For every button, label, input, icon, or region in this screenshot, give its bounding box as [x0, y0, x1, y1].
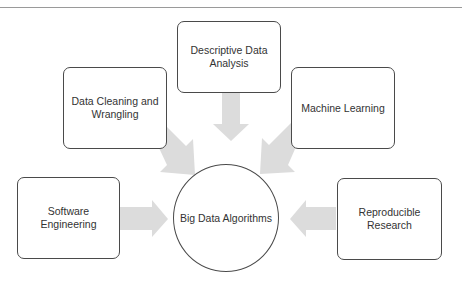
node-machine-learning: Machine Learning: [291, 67, 395, 149]
node-label-line2: Wrangling: [72, 108, 159, 121]
node-label-line1: Software: [40, 205, 96, 218]
node-label-line2: Research: [359, 219, 421, 232]
node-label-line1: Descriptive Data: [190, 44, 267, 57]
node-reproducible-research: Reproducible Research: [337, 178, 442, 260]
center-node-big-data-algorithms: Big Data Algorithms: [173, 164, 279, 272]
node-label-line1: Reproducible: [359, 206, 421, 219]
arrow-down-icon: [213, 92, 249, 141]
arrow-left-icon: [290, 200, 336, 237]
center-node-label: Big Data Algorithms: [180, 212, 272, 224]
node-software-engineering: Software Engineering: [17, 177, 120, 259]
node-data-cleaning-wrangling: Data Cleaning and Wrangling: [63, 67, 167, 149]
node-label-line2: Engineering: [40, 218, 96, 231]
node-descriptive-data-analysis: Descriptive Data Analysis: [177, 21, 281, 93]
node-label-line2: Analysis: [190, 57, 267, 70]
node-label-line1: Data Cleaning and: [72, 95, 159, 108]
node-label-line1: Machine Learning: [301, 102, 384, 115]
arrow-right-icon: [120, 200, 168, 237]
